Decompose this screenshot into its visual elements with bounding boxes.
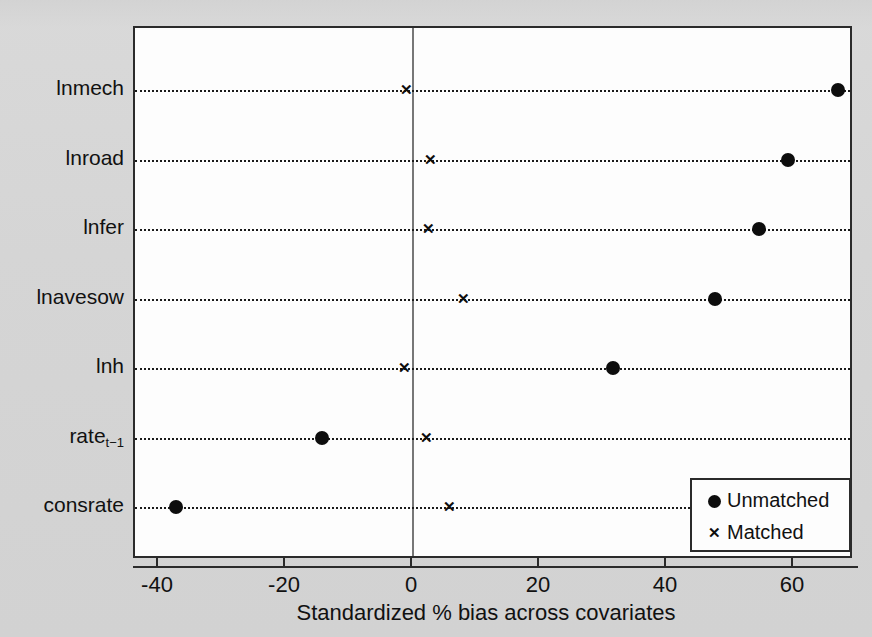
data-point-matched: ✕ bbox=[420, 431, 434, 445]
x-axis-tick-label: -20 bbox=[268, 572, 300, 598]
x-axis-tick-label: 20 bbox=[526, 572, 550, 598]
row-guide-line bbox=[135, 438, 850, 440]
y-axis-label-text: lnmech bbox=[56, 76, 124, 99]
data-point-matched: ✕ bbox=[443, 500, 457, 514]
data-point-matched: ✕ bbox=[422, 222, 436, 236]
row-guide-line bbox=[135, 299, 850, 301]
data-point-unmatched bbox=[606, 361, 620, 375]
x-axis-tick-label: -40 bbox=[141, 572, 173, 598]
x-axis-tick bbox=[410, 558, 412, 568]
y-axis-label-text: lnroad bbox=[66, 146, 124, 169]
x-axis-title-text: Standardized % bias across covariates bbox=[296, 600, 675, 626]
data-point-unmatched bbox=[315, 431, 329, 445]
y-axis-label-4: lnavesow bbox=[36, 285, 124, 309]
y-axis-label-text: rate bbox=[69, 424, 105, 447]
row-guide-line bbox=[135, 368, 850, 370]
zero-reference-line bbox=[412, 28, 414, 556]
data-point-matched: ✕ bbox=[399, 83, 413, 97]
y-axis-label-3: lnfer bbox=[83, 215, 124, 239]
row-guide-line bbox=[135, 229, 850, 231]
legend-entry: Unmatched bbox=[692, 484, 849, 516]
y-axis-label-text: lnavesow bbox=[36, 285, 124, 308]
legend-x-icon: ✕ bbox=[701, 525, 727, 540]
legend-entry-label: Matched bbox=[727, 521, 804, 544]
x-axis-tick bbox=[791, 558, 793, 568]
legend-entry-label: Unmatched bbox=[727, 489, 829, 512]
y-axis-label-text: lnh bbox=[96, 354, 124, 377]
data-point-unmatched bbox=[752, 222, 766, 236]
chart-legend: Unmatched✕Matched bbox=[690, 478, 851, 552]
x-axis-tick bbox=[537, 558, 539, 568]
y-axis-label-text: consrate bbox=[43, 493, 124, 516]
y-axis-label-5: lnh bbox=[96, 354, 124, 378]
data-point-unmatched bbox=[831, 83, 845, 97]
y-axis-label-text: lnfer bbox=[83, 215, 124, 238]
y-axis-label-2: lnroad bbox=[66, 146, 124, 170]
filled-circle-icon bbox=[708, 495, 721, 508]
y-axis-label-subscript: t−1 bbox=[106, 435, 124, 450]
data-point-unmatched bbox=[781, 153, 795, 167]
x-axis-tick bbox=[156, 558, 158, 568]
x-axis-line bbox=[133, 566, 858, 568]
x-axis-title: Standardized % bias across covariates bbox=[0, 600, 872, 626]
legend-entry: ✕Matched bbox=[692, 516, 849, 548]
y-axis-labels: lnmechlnroadlnferlnavesowlnhratet−1consr… bbox=[0, 26, 124, 558]
x-axis-tick-label: 0 bbox=[405, 572, 417, 598]
data-point-matched: ✕ bbox=[457, 292, 471, 306]
legend-circle-icon bbox=[701, 492, 727, 508]
data-point-unmatched bbox=[708, 292, 722, 306]
x-axis-tick bbox=[664, 558, 666, 568]
data-point-matched: ✕ bbox=[424, 153, 438, 167]
x-axis-tick-label: 60 bbox=[780, 572, 804, 598]
row-guide-line bbox=[135, 90, 850, 92]
data-point-matched: ✕ bbox=[398, 361, 412, 375]
data-point-unmatched bbox=[169, 500, 183, 514]
y-axis-label-6: ratet−1 bbox=[69, 424, 124, 448]
y-axis-label-7: consrate bbox=[43, 493, 124, 517]
x-axis-tick-label: 40 bbox=[653, 572, 677, 598]
x-axis-tick bbox=[283, 558, 285, 568]
y-axis-label-1: lnmech bbox=[56, 76, 124, 100]
row-guide-line bbox=[135, 160, 850, 162]
